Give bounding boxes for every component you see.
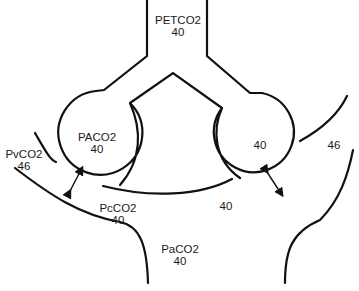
paco2-arterial-label: PaCO2 40 bbox=[157, 243, 203, 267]
right-venous-label: 46 bbox=[324, 139, 344, 151]
capillary-right-lower-wall bbox=[285, 150, 353, 283]
paco2-arterial-name: PaCO2 bbox=[157, 243, 203, 255]
petco2-name: PETCO2 bbox=[153, 14, 203, 26]
right-alveolus-label: 40 bbox=[250, 139, 270, 151]
petco2-label: PETCO2 40 bbox=[153, 14, 203, 38]
right-capillary-label: 40 bbox=[216, 200, 236, 212]
pvco2-label: PvCO2 46 bbox=[4, 148, 44, 172]
right-alveolus-value: 40 bbox=[250, 139, 270, 151]
petco2-value: 40 bbox=[153, 26, 203, 38]
paco2-alveolar-name: PACO2 bbox=[74, 131, 120, 143]
right-venous-value: 46 bbox=[324, 139, 344, 151]
pcco2-label: PcCO2 40 bbox=[97, 202, 139, 226]
paco2-alveolar-label: PACO2 40 bbox=[74, 131, 120, 155]
paco2-arterial-value: 40 bbox=[157, 255, 203, 267]
pvco2-name: PvCO2 bbox=[4, 148, 44, 160]
right-diffusion-arrow bbox=[267, 172, 282, 195]
right-capillary-value: 40 bbox=[216, 200, 236, 212]
co2-exchange-diagram: PETCO2 40 PACO2 40 40 PvCO2 46 46 PcCO2 … bbox=[0, 0, 359, 291]
right-alveolus bbox=[214, 93, 294, 178]
left-diffusion-arrow bbox=[70, 168, 82, 191]
paco2-alveolar-value: 40 bbox=[74, 143, 120, 155]
pcco2-name: PcCO2 bbox=[97, 202, 139, 214]
capillary-right-upper-wall bbox=[300, 96, 347, 141]
pvco2-value: 46 bbox=[4, 160, 44, 172]
pcco2-value: 40 bbox=[97, 214, 139, 226]
